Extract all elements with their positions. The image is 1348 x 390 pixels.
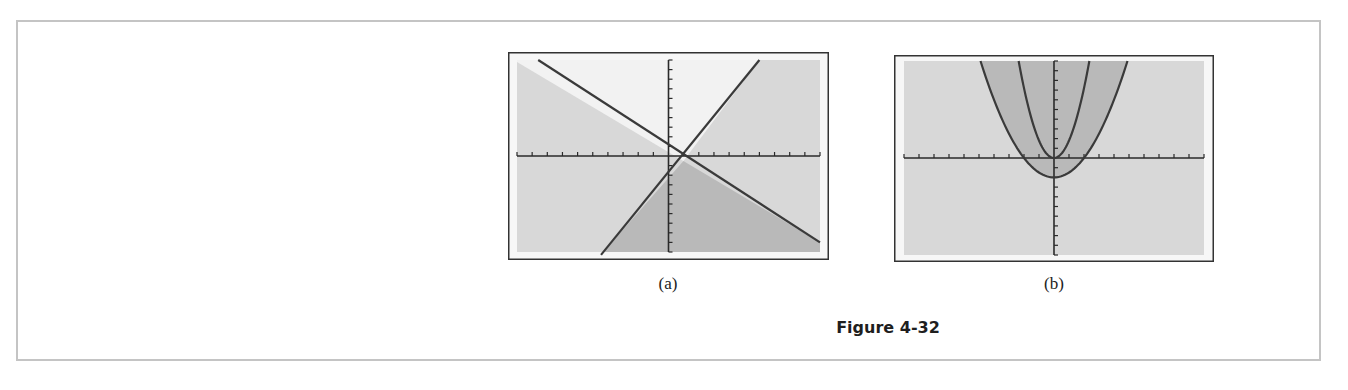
panel-label-b: (b): [1024, 274, 1084, 294]
panel-label-a: (a): [638, 274, 698, 294]
graph-a: [508, 52, 829, 260]
graph-b-plot: [894, 55, 1214, 262]
graph-b: [894, 55, 1214, 262]
figure-caption: Figure 4-32: [818, 318, 958, 337]
graph-a-plot: [508, 52, 829, 260]
